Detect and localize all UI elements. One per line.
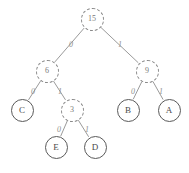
node-label: 15 [88, 15, 96, 23]
internal-node-6: 6 [36, 60, 59, 83]
edge-bit-label-e-6-C: 0 [31, 88, 35, 96]
edge-bit-label-e-15-9: 1 [118, 41, 122, 49]
edge-bit-label-e-3-D: 1 [85, 126, 89, 134]
tree-edge [61, 121, 67, 136]
node-label: D [92, 143, 99, 152]
leaf-node-B: B [117, 99, 140, 122]
node-label: C [19, 106, 25, 115]
huffman-tree-figure: 15693CBAED 01010101 [0, 0, 189, 173]
leaf-node-D: D [84, 136, 107, 159]
leaf-node-C: C [11, 99, 34, 122]
figure-caption [0, 164, 189, 173]
internal-node-15: 15 [81, 8, 104, 31]
edge-bit-label-e-15-6: 0 [69, 41, 73, 49]
node-label: E [53, 143, 59, 152]
leaf-node-A: A [158, 99, 181, 122]
edge-bit-label-e-9-A: 1 [159, 88, 163, 96]
node-label: B [125, 106, 131, 115]
edge-bit-label-e-3-E: 0 [57, 126, 61, 134]
edge-bit-label-e-6-3: 1 [58, 88, 62, 96]
node-label: 9 [145, 67, 149, 75]
node-label: 6 [45, 67, 49, 75]
internal-node-9: 9 [136, 60, 159, 83]
node-label: A [166, 106, 173, 115]
edge-bit-label-e-9-B: 0 [131, 88, 135, 96]
leaf-node-E: E [45, 136, 68, 159]
node-label: 3 [70, 106, 74, 114]
internal-node-3: 3 [61, 99, 84, 122]
